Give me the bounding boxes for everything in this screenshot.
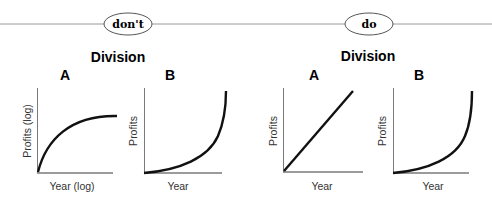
y-axis-label: Profits <box>267 116 279 146</box>
do-tag: do <box>345 13 393 35</box>
x-axis-label: Year <box>422 180 444 192</box>
dont-chart-a: Profits (log) Year (log) <box>21 88 117 192</box>
y-axis-label: Profits <box>376 116 388 146</box>
curve <box>393 91 472 173</box>
dont-tag: don't <box>104 13 152 35</box>
do-chart-a-letter: A <box>309 67 319 83</box>
dont-chart-b-letter: B <box>165 67 175 83</box>
dont-tag-label: don't <box>112 18 144 31</box>
do-chart-b: Profits Year <box>376 88 472 192</box>
do-heading: Division <box>341 48 395 64</box>
dont-chart-a-letter: A <box>60 67 70 83</box>
diagram: don't do Division Division A B A B Profi… <box>0 0 492 205</box>
x-axis-label: Year <box>311 180 333 192</box>
do-chart-b-letter: B <box>414 67 424 83</box>
x-axis-label: Year (log) <box>49 180 94 192</box>
dont-chart-b: Profits Year <box>127 88 226 192</box>
do-tag-label: do <box>361 18 376 31</box>
curve <box>284 91 353 171</box>
curve <box>38 116 117 172</box>
do-chart-a: Profits Year <box>267 88 363 192</box>
dont-heading: Division <box>91 49 145 65</box>
curve <box>144 91 226 173</box>
x-axis-label: Year <box>167 180 189 192</box>
y-axis-label: Profits <box>127 116 139 146</box>
y-axis-label: Profits (log) <box>21 104 33 158</box>
